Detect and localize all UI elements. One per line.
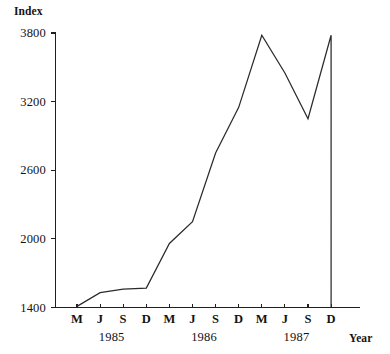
x-axis-year-label: 1985 xyxy=(87,331,137,344)
x-tick-label: S xyxy=(111,313,135,326)
x-tick-label: S xyxy=(204,313,228,326)
x-tick-label: S xyxy=(296,313,320,326)
y-tick-marks xyxy=(51,33,56,308)
x-axis-year-label: 1987 xyxy=(271,331,321,344)
plot-area xyxy=(0,0,390,354)
y-tick-label: 1400 xyxy=(6,302,46,315)
x-tick-label: D xyxy=(134,313,158,326)
x-tick-label: D xyxy=(227,313,251,326)
index-series-line xyxy=(77,35,331,307)
y-tick-label: 2000 xyxy=(6,233,46,246)
y-tick-label: 2600 xyxy=(6,164,46,177)
x-tick-label: M xyxy=(65,313,89,326)
x-tick-label: M xyxy=(157,313,181,326)
y-tick-label: 3200 xyxy=(6,96,46,109)
y-tick-label: 3800 xyxy=(6,27,46,40)
x-tick-label: M xyxy=(250,313,274,326)
x-tick-label: D xyxy=(319,313,343,326)
x-tick-marks xyxy=(77,304,331,308)
x-tick-label: J xyxy=(273,313,297,326)
index-line-chart: Index Year 14002000260032003800 MJSDMJSD… xyxy=(0,0,390,354)
axis-group xyxy=(56,33,361,308)
x-tick-label: J xyxy=(181,313,205,326)
x-tick-label: J xyxy=(88,313,112,326)
x-axis-year-label: 1986 xyxy=(179,331,229,344)
